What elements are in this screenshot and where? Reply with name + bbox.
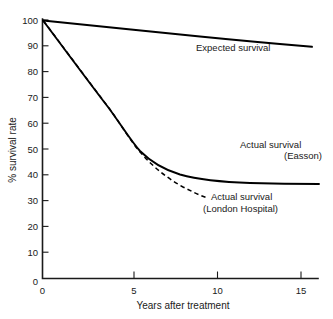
x-axis-ticks — [134, 272, 301, 279]
chart-canvas: 100 90 80 70 60 50 40 30 20 10 0 0 5 10 … — [0, 0, 333, 319]
label-actual-survival-easson-line2: (Easson) — [284, 150, 322, 161]
x-tick-15: 15 — [296, 285, 307, 296]
y-tick-80: 80 — [27, 66, 38, 77]
x-axis-tick-labels: 0 5 10 15 — [40, 285, 306, 296]
y-axis-tick-labels: 100 90 80 70 60 50 40 30 20 10 0 — [22, 15, 38, 288]
y-tick-70: 70 — [27, 92, 38, 103]
y-tick-40: 40 — [27, 169, 38, 180]
y-tick-20: 20 — [27, 221, 38, 232]
y-axis-ticks — [43, 20, 49, 252]
y-tick-90: 90 — [27, 40, 38, 51]
series-actual-survival-easson — [43, 21, 319, 185]
survival-chart: 100 90 80 70 60 50 40 30 20 10 0 0 5 10 … — [0, 0, 333, 319]
label-actual-survival-easson-line1: Actual survival — [240, 139, 301, 150]
y-tick-30: 30 — [27, 195, 38, 206]
y-tick-100: 100 — [22, 15, 38, 26]
series-expected-survival — [43, 21, 312, 47]
label-actual-survival-london-line2: (London Hospital) — [203, 203, 278, 214]
label-actual-survival-london-line1: Actual survival — [211, 191, 272, 202]
y-axis-title: % survival rate — [7, 117, 18, 183]
x-tick-5: 5 — [131, 285, 136, 296]
y-tick-50: 50 — [27, 144, 38, 155]
y-tick-10: 10 — [27, 247, 38, 258]
x-tick-0: 0 — [40, 285, 45, 296]
x-axis-title: Years after treatment — [136, 300, 229, 311]
label-expected-survival: Expected survival — [196, 42, 270, 53]
y-tick-0: 0 — [33, 276, 38, 287]
x-tick-10: 10 — [212, 285, 223, 296]
y-tick-60: 60 — [27, 118, 38, 129]
series-actual-survival-london-hospital — [44, 21, 207, 198]
